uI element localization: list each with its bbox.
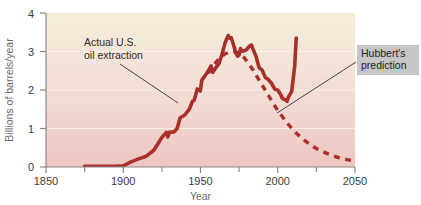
y-tick-label-1: 1 — [28, 123, 34, 135]
x-tick-label-2050: 2050 — [343, 175, 367, 187]
y-tick-label-3: 3 — [28, 46, 34, 58]
chart-figure: 0 1 2 3 4 1850 1900 1950 2000 2050 Year … — [0, 0, 421, 205]
annotation-hubbert-line1: Hubbert's — [361, 47, 406, 59]
oil-extraction-chart: 0 1 2 3 4 1850 1900 1950 2000 2050 Year … — [0, 0, 421, 205]
y-tick-label-2: 2 — [28, 84, 34, 96]
annotation-actual-line2: oil extraction — [84, 49, 143, 61]
annotation-actual-line1: Actual U.S. — [84, 36, 137, 48]
x-axis-title: Year — [190, 190, 212, 202]
y-tick-label-0: 0 — [28, 161, 34, 173]
x-tick-label-1950: 1950 — [188, 175, 212, 187]
x-tick-label-1850: 1850 — [34, 175, 58, 187]
y-axis-ticks — [40, 13, 46, 167]
annotation-hubbert-line2: prediction — [361, 59, 407, 71]
x-axis-ticks-major — [46, 167, 355, 173]
y-tick-label-4: 4 — [28, 8, 34, 20]
x-tick-label-1900: 1900 — [111, 175, 135, 187]
x-tick-label-2000: 2000 — [266, 175, 290, 187]
y-axis-title: Billions of barrels/year — [3, 38, 15, 142]
